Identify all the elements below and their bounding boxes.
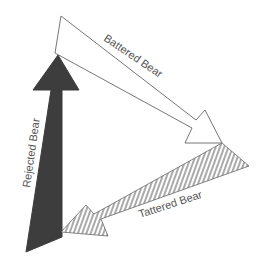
battered-bear-arrow (55, 16, 222, 143)
battered-bear-arrow-shape (55, 16, 222, 143)
tattered-bear-arrow-shape (61, 143, 249, 236)
tattered-bear-arrow (61, 143, 249, 236)
bear-cycle-diagram: Battered Bear Rejected Bear Tattered Bea… (0, 0, 266, 270)
